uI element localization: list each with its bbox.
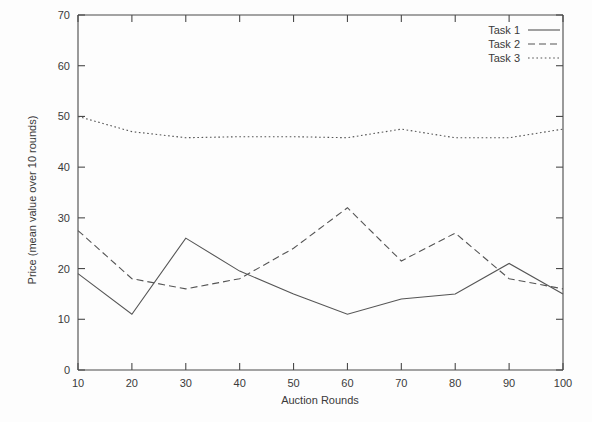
x-axis-ticks xyxy=(78,15,563,370)
series-line-3 xyxy=(78,116,563,137)
legend-label-2: Task 2 xyxy=(488,38,520,50)
x-tick-label: 100 xyxy=(554,377,572,389)
x-tick-label: 70 xyxy=(395,377,407,389)
x-tick-label: 10 xyxy=(72,377,84,389)
axis-frame xyxy=(78,15,563,370)
x-tick-label: 30 xyxy=(180,377,192,389)
plot-frame xyxy=(78,15,563,370)
y-axis-tick-labels: 010203040506070 xyxy=(58,9,70,376)
x-axis-title: Auction Rounds xyxy=(281,394,359,406)
chart-legend: Task 1Task 2Task 3 xyxy=(488,24,560,64)
y-tick-label: 0 xyxy=(64,364,70,376)
legend-label-3: Task 3 xyxy=(488,52,520,64)
chart-figure: 010203040506070 102030405060708090100 Au… xyxy=(0,0,592,422)
y-axis-ticks xyxy=(78,15,563,370)
data-series-group xyxy=(78,116,563,314)
x-axis-tick-labels: 102030405060708090100 xyxy=(72,377,572,389)
y-tick-label: 10 xyxy=(58,313,70,325)
y-axis-title: Price (mean value over 10 rounds) xyxy=(26,116,38,285)
y-tick-label: 70 xyxy=(58,9,70,21)
y-tick-label: 40 xyxy=(58,161,70,173)
series-line-1 xyxy=(78,238,563,314)
series-line-2 xyxy=(78,208,563,289)
x-tick-label: 80 xyxy=(449,377,461,389)
y-tick-label: 60 xyxy=(58,60,70,72)
x-tick-label: 50 xyxy=(287,377,299,389)
x-tick-label: 40 xyxy=(234,377,246,389)
y-tick-label: 30 xyxy=(58,212,70,224)
x-tick-label: 60 xyxy=(341,377,353,389)
y-tick-label: 50 xyxy=(58,110,70,122)
x-tick-label: 90 xyxy=(503,377,515,389)
line-chart: 010203040506070 102030405060708090100 Au… xyxy=(0,0,592,422)
y-tick-label: 20 xyxy=(58,263,70,275)
legend-label-1: Task 1 xyxy=(488,24,520,36)
x-tick-label: 20 xyxy=(126,377,138,389)
